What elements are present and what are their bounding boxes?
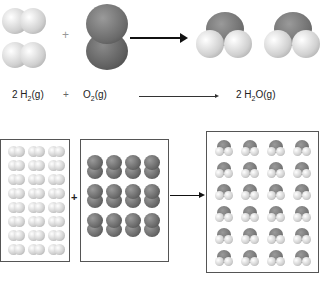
reactant-o2-label: O2(g) bbox=[83, 89, 107, 102]
h2-molecule bbox=[48, 146, 65, 157]
h2o-molecule bbox=[267, 140, 285, 156]
reaction-arrow-equation bbox=[139, 96, 217, 97]
o2-molecule bbox=[125, 184, 141, 208]
h2o-molecule-1 bbox=[196, 12, 252, 60]
arrowhead-diagram-icon bbox=[199, 192, 205, 198]
o2-molecule bbox=[87, 155, 103, 179]
h2-molecule bbox=[8, 188, 25, 199]
h2-molecule bbox=[8, 230, 25, 241]
o2-container-box bbox=[80, 139, 169, 262]
h2o-molecule bbox=[267, 184, 285, 200]
h2o-molecule bbox=[241, 140, 259, 156]
h2-molecule bbox=[8, 244, 25, 255]
state: (g) bbox=[31, 89, 43, 100]
h2-molecule bbox=[28, 188, 45, 199]
h2-molecule bbox=[48, 202, 65, 213]
h2-molecule bbox=[8, 146, 25, 157]
o2-molecule bbox=[106, 184, 122, 208]
plus-sign-top: + bbox=[62, 28, 69, 42]
h2o-molecule bbox=[267, 206, 285, 222]
h2o-molecule bbox=[241, 228, 259, 244]
h2o-molecule bbox=[215, 162, 233, 178]
h2o-molecule bbox=[293, 140, 311, 156]
reactant-h2-label: 2 H2(g) bbox=[12, 89, 44, 102]
o2-molecule bbox=[86, 4, 128, 70]
h2o-molecule bbox=[293, 184, 311, 200]
h2o-molecule bbox=[293, 228, 311, 244]
h2o-molecule bbox=[215, 206, 233, 222]
h2-molecule bbox=[48, 230, 65, 241]
h2o-molecule bbox=[241, 250, 259, 266]
arrowhead-top-icon bbox=[180, 33, 188, 43]
reaction-arrow-top bbox=[130, 37, 182, 39]
h2-molecule bbox=[8, 174, 25, 185]
h2-molecule bbox=[8, 216, 25, 227]
h2o-molecule bbox=[267, 162, 285, 178]
h2o-molecule bbox=[215, 184, 233, 200]
h2-molecule bbox=[48, 160, 65, 171]
formula: H bbox=[20, 89, 27, 100]
h2-molecule bbox=[48, 174, 65, 185]
h2-molecule bbox=[28, 244, 45, 255]
h2-molecule-top bbox=[2, 8, 46, 34]
h2o-molecule bbox=[293, 250, 311, 266]
h2o-molecule bbox=[267, 228, 285, 244]
arrowhead-equation-icon bbox=[215, 94, 219, 98]
formula: H bbox=[244, 89, 251, 100]
h2o-molecule bbox=[267, 250, 285, 266]
h2-molecule-bottom bbox=[2, 42, 46, 68]
o2-molecule bbox=[144, 155, 160, 179]
plus-sign-equation: + bbox=[63, 89, 69, 100]
h2-molecule bbox=[28, 174, 45, 185]
h2-molecule bbox=[28, 146, 45, 157]
o2-molecule bbox=[106, 155, 122, 179]
h2-molecule bbox=[28, 202, 45, 213]
h2o-molecule bbox=[293, 162, 311, 178]
h2o-molecule bbox=[241, 184, 259, 200]
o2-molecule bbox=[87, 184, 103, 208]
o2-molecule bbox=[125, 213, 141, 237]
h2o-molecule bbox=[215, 228, 233, 244]
state: (g) bbox=[95, 89, 107, 100]
h2o-molecule-2 bbox=[264, 12, 320, 60]
o2-molecule bbox=[87, 213, 103, 237]
o2-molecule bbox=[144, 213, 160, 237]
product-h2o-label: 2 H2O(g) bbox=[236, 89, 275, 102]
h2-molecule bbox=[48, 188, 65, 199]
h2o-molecule bbox=[293, 206, 311, 222]
plus-sign-diagram: + bbox=[71, 191, 77, 203]
h2-molecule bbox=[48, 244, 65, 255]
h2o-molecule bbox=[241, 206, 259, 222]
h2-molecule bbox=[8, 202, 25, 213]
o2-molecule bbox=[144, 184, 160, 208]
o2-molecule bbox=[106, 213, 122, 237]
h2o-molecule bbox=[215, 140, 233, 156]
h2-container-box bbox=[0, 139, 70, 262]
h2-molecule bbox=[28, 230, 45, 241]
h2o-container-box bbox=[206, 131, 319, 273]
h2o-molecule bbox=[215, 250, 233, 266]
h2-molecule bbox=[28, 216, 45, 227]
h2o-molecule bbox=[241, 162, 259, 178]
h2-molecule bbox=[48, 216, 65, 227]
h2-molecule bbox=[28, 160, 45, 171]
reaction-arrow-diagram bbox=[170, 195, 200, 196]
rest: O(g) bbox=[255, 89, 275, 100]
h2-molecule bbox=[8, 160, 25, 171]
formula: O bbox=[83, 89, 91, 100]
o2-molecule bbox=[125, 155, 141, 179]
